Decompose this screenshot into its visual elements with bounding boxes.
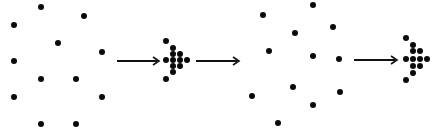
dot xyxy=(11,22,17,28)
dot xyxy=(410,48,416,54)
arrow-right-icon xyxy=(117,57,159,65)
dot xyxy=(403,77,409,83)
dot xyxy=(99,94,105,100)
arrow-right-icon xyxy=(354,56,397,64)
dot xyxy=(275,120,281,126)
dot xyxy=(249,93,255,99)
dot xyxy=(55,40,61,46)
dot xyxy=(410,42,416,48)
dot xyxy=(99,49,105,55)
dot xyxy=(184,57,190,63)
dot xyxy=(310,2,316,8)
dot xyxy=(163,57,169,63)
dot xyxy=(163,76,169,82)
dot xyxy=(73,76,79,82)
dot xyxy=(170,45,176,51)
dot xyxy=(170,51,176,57)
dot xyxy=(310,53,316,59)
dot xyxy=(290,84,296,90)
scattered-dots-group-1 xyxy=(11,4,105,127)
dot xyxy=(177,51,183,57)
diagram-canvas xyxy=(0,0,438,135)
dot xyxy=(403,56,409,62)
dot xyxy=(266,48,272,54)
dot-convergence-diagram xyxy=(0,0,438,135)
dot xyxy=(410,56,416,62)
dot xyxy=(330,24,336,30)
dot xyxy=(177,57,183,63)
dot xyxy=(410,63,416,69)
dot xyxy=(170,63,176,69)
dot xyxy=(170,69,176,75)
dot xyxy=(11,58,17,64)
dot xyxy=(38,121,44,127)
dot xyxy=(310,102,316,108)
dot xyxy=(81,13,87,19)
dot xyxy=(38,4,44,10)
arrow-right-icon xyxy=(196,57,239,65)
dot xyxy=(403,35,409,41)
dot xyxy=(417,56,423,62)
scattered-dots-group-2 xyxy=(249,2,343,126)
dot xyxy=(410,70,416,76)
dot xyxy=(424,56,430,62)
dot xyxy=(73,121,79,127)
dot xyxy=(337,89,343,95)
dot xyxy=(417,48,423,54)
dot xyxy=(260,12,266,18)
dot xyxy=(11,94,17,100)
arrowhead-dot-cluster-1 xyxy=(163,38,190,82)
dot xyxy=(292,30,298,36)
dot xyxy=(170,57,176,63)
dot xyxy=(38,76,44,82)
dot xyxy=(417,63,423,69)
dot xyxy=(336,56,342,62)
dot xyxy=(177,63,183,69)
dot xyxy=(163,38,169,44)
arrowhead-dot-cluster-2 xyxy=(403,35,430,83)
